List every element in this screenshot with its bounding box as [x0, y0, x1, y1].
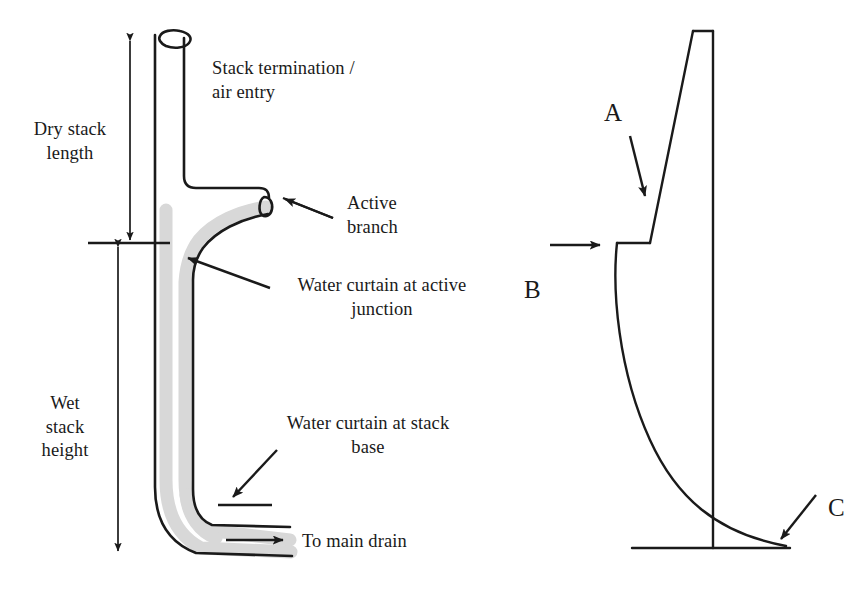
- profile-lower-curve: [615, 243, 786, 546]
- wet-stack-height-label: Wetstackheight: [22, 392, 108, 463]
- active-branch-line1: Active: [347, 193, 397, 213]
- water-curtain-stack-base-line2: base: [351, 437, 384, 457]
- stack-termination-line2: air entry: [212, 82, 275, 102]
- pressure-profile-trace: [615, 31, 790, 548]
- profile-upper-slant: [650, 31, 693, 243]
- stack-termination-line1: Stack termination /: [212, 58, 355, 78]
- to-main-drain-label: To main drain: [302, 530, 462, 554]
- leader-active-branch-arrow: [285, 199, 333, 218]
- active-branch-label: Activebranch: [347, 192, 447, 239]
- to-main-drain-text: To main drain: [302, 531, 407, 551]
- water-curtain-band: [166, 207, 291, 552]
- marker-a-label: A: [604, 100, 622, 125]
- dry-stack-length-line2: length: [47, 143, 94, 163]
- stack-termination-label: Stack termination /air entry: [212, 57, 422, 104]
- pressure-profile-markers: [550, 136, 816, 539]
- wet-stack-height-line3: height: [42, 440, 89, 460]
- figure-root: Dry stacklength Wetstackheight Stack ter…: [0, 0, 866, 604]
- marker-b-label: B: [524, 277, 541, 302]
- callout-leaders: [188, 198, 333, 540]
- water-curtain-active-junction-label: Water curtain at activejunction: [278, 274, 486, 321]
- dry-stack-length-line1: Dry stack: [34, 119, 106, 139]
- water-curtain-stack-base-label: Water curtain at stackbase: [266, 412, 470, 459]
- stack-right-wall-lower: [193, 214, 290, 527]
- water-curtain-active-junction-line2: junction: [351, 299, 412, 319]
- water-curtain-active: [185, 207, 290, 540]
- marker-c-label: C: [828, 495, 845, 520]
- stack-termination-ellipse: [159, 30, 190, 47]
- active-branch-line2: branch: [347, 217, 398, 237]
- stack-pipe-outline: [155, 30, 292, 556]
- stack-left-wall: [155, 35, 292, 556]
- marker-c-arrow: [781, 495, 816, 539]
- dry-stack-length-label: Dry stacklength: [18, 118, 122, 165]
- wet-stack-height-line1: Wet: [50, 393, 80, 413]
- wet-stack-height-line2: stack: [46, 417, 85, 437]
- leader-water-curtain-active: [188, 258, 270, 288]
- water-curtain-stack-base-line1: Water curtain at stack: [287, 413, 450, 433]
- water-curtain-active-junction-line1: Water curtain at active: [298, 275, 467, 295]
- marker-a-arrow: [630, 136, 645, 196]
